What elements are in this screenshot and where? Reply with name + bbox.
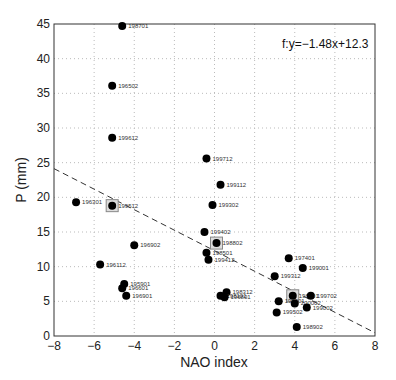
grid-lines xyxy=(54,24,375,336)
data-point xyxy=(293,323,301,331)
y-tick-label: 0 xyxy=(43,329,50,343)
data-point xyxy=(275,297,283,305)
y-tick-label: 10 xyxy=(37,260,51,274)
point-label: 199112 xyxy=(227,182,247,188)
point-label: 196502 xyxy=(118,83,139,89)
point-label: 199712 xyxy=(212,156,233,162)
axis-ticks: −8−6−4−202468051015202530354045 xyxy=(37,17,379,353)
data-point xyxy=(108,134,116,142)
data-point xyxy=(307,292,315,300)
data-point xyxy=(221,293,229,301)
x-tick-label: −4 xyxy=(127,339,141,353)
data-point xyxy=(108,82,116,90)
point-label: 199702 xyxy=(317,293,338,299)
x-tick-label: 8 xyxy=(372,339,379,353)
data-point xyxy=(271,272,279,280)
x-tick-label: 6 xyxy=(332,339,339,353)
x-axis-label: NAO index xyxy=(180,354,248,370)
data-point xyxy=(299,264,307,272)
data-point xyxy=(204,256,212,264)
equation-annotation: f:y=−1.48x+12.3 xyxy=(282,37,369,51)
y-tick-label: 35 xyxy=(37,86,51,100)
y-tick-label: 45 xyxy=(37,17,51,31)
point-label: 196902 xyxy=(140,242,161,248)
point-label: 198802 xyxy=(223,240,244,246)
point-label: 196801 xyxy=(231,294,252,300)
x-tick-label: 0 xyxy=(211,339,218,353)
point-label: 196112 xyxy=(106,262,126,268)
point-label: 196301 xyxy=(82,199,103,205)
data-point xyxy=(118,284,126,292)
data-point xyxy=(72,198,80,206)
data-point xyxy=(303,304,311,312)
point-label: 199002 xyxy=(313,305,334,311)
y-tick-label: 20 xyxy=(37,190,51,204)
data-point xyxy=(208,201,216,209)
point-label: 198501 xyxy=(212,250,233,256)
data-point xyxy=(118,22,126,30)
y-tick-label: 30 xyxy=(37,121,51,135)
scatter-chart: −8−6−4−202468051015202530354045 19870119… xyxy=(0,0,396,380)
y-tick-label: 25 xyxy=(37,156,51,170)
point-label: 199412 xyxy=(214,257,235,263)
x-tick-label: −6 xyxy=(87,339,101,353)
y-tick-label: 5 xyxy=(43,294,50,308)
data-point xyxy=(108,202,116,210)
data-point xyxy=(273,308,281,316)
point-label: 198701 xyxy=(128,23,149,29)
data-point xyxy=(200,228,208,236)
point-label: 199001 xyxy=(309,265,330,271)
data-point xyxy=(217,181,225,189)
data-points: 1987011965021996121963011995121969021961… xyxy=(72,22,337,331)
data-point xyxy=(291,299,299,307)
point-label: 199502 xyxy=(283,309,304,315)
point-label: 196901 xyxy=(132,293,153,299)
y-tick-label: 40 xyxy=(37,52,51,66)
data-point xyxy=(213,239,221,247)
point-label: 199612 xyxy=(118,135,139,141)
point-label: 198902 xyxy=(303,324,324,330)
data-point xyxy=(130,241,138,249)
x-tick-label: −2 xyxy=(168,339,182,353)
data-point xyxy=(202,155,210,163)
point-label: 199512 xyxy=(118,203,139,209)
point-label: 197401 xyxy=(295,255,316,261)
point-label: 199302 xyxy=(218,202,239,208)
data-point xyxy=(285,254,293,262)
x-tick-label: 4 xyxy=(291,339,298,353)
y-axis-label: P (mm) xyxy=(13,157,29,203)
data-point xyxy=(96,261,104,269)
data-point xyxy=(202,249,210,257)
point-label: 199402 xyxy=(210,229,231,235)
data-point xyxy=(122,292,130,300)
point-label: 196601 xyxy=(128,285,149,291)
point-label: 199312 xyxy=(281,273,302,279)
y-tick-label: 15 xyxy=(37,225,51,239)
x-tick-label: 2 xyxy=(251,339,258,353)
